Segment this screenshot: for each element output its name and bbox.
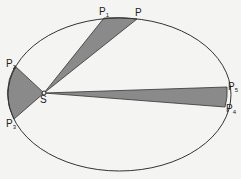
top-sector (44, 18, 137, 93)
label-p2: P2 (6, 58, 17, 70)
right-sector (44, 87, 227, 107)
label-p: P (135, 7, 142, 18)
label-p4: P4 (226, 103, 237, 115)
label-p3: P3 (6, 118, 17, 130)
kepler-diagram: S P1PP2P3P5P4 (0, 0, 241, 179)
orbit-diagram-canvas: S P1PP2P3P5P4 (0, 0, 241, 179)
left-sector (8, 66, 44, 119)
label-p5: P5 (228, 81, 239, 93)
sun-label: S (40, 94, 47, 105)
label-p1: P1 (99, 6, 110, 18)
